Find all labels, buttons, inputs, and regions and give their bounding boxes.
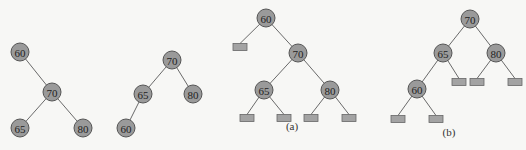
- node-label: 60: [261, 13, 273, 25]
- avl-tree-diagram: 60706580706580606070658070658060 (a)(b): [0, 0, 526, 150]
- tree-node: 60: [257, 9, 275, 27]
- node-label: 80: [188, 89, 200, 101]
- null-leaf: [391, 116, 405, 123]
- tree-node: 80: [184, 85, 202, 103]
- tree-caption: (a): [286, 120, 299, 133]
- node-label: 70: [47, 87, 59, 99]
- node-label: 65: [259, 85, 271, 97]
- edges-layer: [20, 18, 515, 128]
- tree-node: 65: [11, 119, 29, 137]
- node-label: 65: [438, 48, 450, 60]
- tree-node: 80: [74, 119, 92, 137]
- null-leaf: [233, 44, 247, 51]
- node-label: 60: [15, 47, 27, 59]
- tree-node: 60: [11, 43, 29, 61]
- tree-node: 60: [408, 80, 426, 98]
- null-leaves-layer: [233, 44, 522, 123]
- tree-caption: (b): [443, 126, 456, 139]
- tree-node: 80: [321, 81, 339, 99]
- tree-node: 65: [434, 44, 452, 62]
- tree-node: 70: [163, 51, 181, 69]
- node-label: 80: [78, 123, 90, 135]
- node-label: 80: [491, 48, 503, 60]
- node-label: 60: [412, 84, 424, 96]
- node-label: 80: [325, 85, 337, 97]
- node-label: 70: [167, 55, 179, 67]
- node-label: 65: [15, 123, 27, 135]
- null-leaf: [240, 115, 254, 122]
- node-label: 70: [293, 48, 305, 60]
- tree-node: 70: [43, 83, 61, 101]
- null-leaf: [304, 115, 318, 122]
- tree-node: 80: [487, 44, 505, 62]
- tree-node: 70: [289, 44, 307, 62]
- node-label: 65: [138, 89, 150, 101]
- tree-node: 65: [134, 85, 152, 103]
- node-label: 70: [465, 14, 477, 26]
- null-leaf: [429, 116, 443, 123]
- null-leaf: [452, 79, 466, 86]
- null-leaf: [508, 79, 522, 86]
- null-leaf: [470, 79, 484, 86]
- node-label: 60: [121, 123, 133, 135]
- null-leaf: [342, 115, 356, 122]
- tree-node: 65: [255, 81, 273, 99]
- tree-node: 60: [117, 119, 135, 137]
- tree-node: 70: [461, 10, 479, 28]
